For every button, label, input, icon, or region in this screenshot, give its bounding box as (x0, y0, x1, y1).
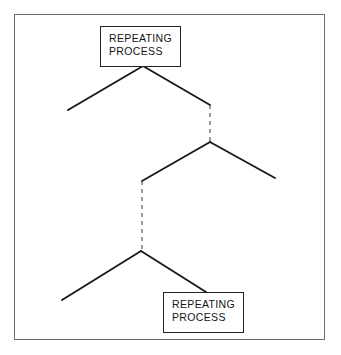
top-right-branch (143, 66, 210, 105)
middle-left-branch (142, 142, 210, 181)
box-bottom-line-1: REPEATING (172, 298, 236, 311)
box-top-line-2: PROCESS (109, 45, 173, 58)
top-left-branch (68, 66, 143, 110)
bottom-left-branch (62, 251, 141, 300)
repeating-process-box-top: REPEATING PROCESS (100, 26, 181, 67)
box-bottom-line-2: PROCESS (172, 311, 236, 324)
middle-right-branch (210, 142, 275, 178)
repeating-process-box-bottom: REPEATING PROCESS (163, 292, 244, 333)
diagram-page: REPEATING PROCESS REPEATING PROCESS (0, 0, 341, 355)
box-top-line-1: REPEATING (109, 32, 173, 45)
bottom-right-branch (141, 251, 206, 292)
